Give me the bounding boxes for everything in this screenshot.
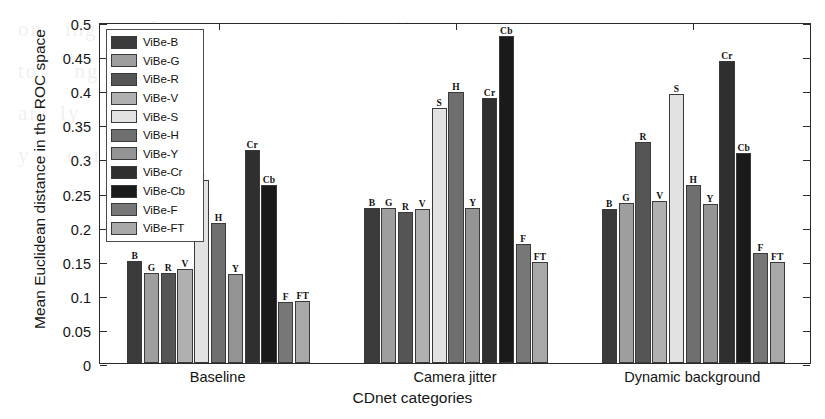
bar-value-label: S — [436, 98, 441, 108]
legend-swatch — [111, 203, 137, 216]
bar-value-label: B — [369, 198, 376, 208]
y-axis-title: Mean Euclidean distance in the ROC space — [31, 0, 49, 359]
bar: Cr — [245, 150, 260, 363]
x-group-label: Camera jitter — [414, 369, 497, 385]
legend-item: ViBe-B — [111, 33, 199, 52]
bar-value-label: G — [622, 193, 630, 203]
legend-swatch — [111, 222, 137, 235]
bar-value-label: FT — [296, 291, 309, 301]
bar-value-label: F — [758, 243, 764, 253]
bar: FT — [770, 262, 785, 363]
bar: F — [278, 302, 293, 363]
bar: V — [652, 201, 667, 363]
bar: B — [127, 261, 142, 363]
bar: H — [448, 92, 463, 363]
bar: H — [686, 185, 701, 363]
legend-label: ViBe-Cr — [143, 166, 182, 178]
bar-value-label: H — [452, 82, 460, 92]
legend-label: ViBe-B — [143, 36, 178, 48]
legend-swatch — [111, 110, 137, 123]
bar-value-label: Cb — [263, 175, 276, 185]
bar: R — [635, 142, 650, 363]
legend-swatch — [111, 92, 137, 105]
legend-item: ViBe-F — [111, 200, 199, 219]
bar-value-label: Cb — [500, 26, 513, 36]
bar-value-label: G — [385, 198, 393, 208]
bar: G — [381, 208, 396, 363]
bar: B — [364, 208, 379, 363]
x-axis-title: CDnet categories — [0, 389, 825, 407]
bar: Y — [228, 274, 243, 363]
y-tick-label: 0.05 — [63, 324, 91, 340]
bar: B — [602, 209, 617, 363]
bar-value-label: R — [639, 132, 646, 142]
bar-value-label: B — [131, 251, 138, 261]
bar-value-label: V — [182, 259, 189, 269]
legend-label: ViBe-V — [143, 92, 178, 104]
chart-legend: ViBe-BViBe-GViBe-RViBe-VViBe-SViBe-HViBe… — [106, 29, 204, 242]
legend-swatch — [111, 54, 137, 67]
legend-label: ViBe-F — [143, 204, 177, 216]
bar-value-label: G — [148, 263, 156, 273]
y-tick-label: 0.4 — [71, 85, 91, 101]
legend-item: ViBe-Y — [111, 145, 199, 164]
legend-item: ViBe-H — [111, 126, 199, 145]
legend-label: ViBe-S — [143, 111, 178, 123]
legend-item: ViBe-FT — [111, 219, 199, 238]
bar: V — [177, 269, 192, 363]
bar: G — [619, 203, 634, 363]
legend-swatch — [111, 166, 137, 179]
legend-label: ViBe-Y — [143, 148, 178, 160]
bar: S — [432, 108, 447, 363]
y-tick-label: 0.45 — [63, 51, 91, 67]
y-tick-label: 0.35 — [63, 119, 91, 135]
bar: Y — [465, 208, 480, 363]
bar-value-label: V — [656, 191, 663, 201]
y-tick-label: 0.1 — [71, 290, 91, 306]
bar-value-label: Y — [707, 194, 714, 204]
legend-label: ViBe-G — [143, 55, 179, 67]
plot-area: 00.050.10.150.20.250.30.350.40.450.5 BGR… — [99, 23, 811, 364]
bar-value-label: R — [165, 263, 172, 273]
legend-swatch — [111, 147, 137, 160]
bar: R — [161, 273, 176, 363]
bar-chart-figure: Mean Euclidean distance in the ROC space… — [0, 0, 825, 419]
legend-item: ViBe-Cb — [111, 182, 199, 201]
bar-value-label: F — [520, 234, 526, 244]
bar-value-label: Cr — [247, 140, 258, 150]
legend-swatch — [111, 36, 137, 49]
bar: Cr — [482, 98, 497, 363]
y-tick-right — [803, 365, 810, 366]
y-tick-label: 0.5 — [71, 17, 91, 33]
x-group-label: Dynamic background — [624, 369, 760, 385]
bar-value-label: Cr — [484, 88, 495, 98]
legend-swatch — [111, 185, 137, 198]
bars-container: BGRVSHYCrCbFFTBGRVSHYCrCbFFTBGRVSHYCrCbF… — [100, 24, 810, 363]
bar: FT — [295, 301, 310, 363]
legend-item: ViBe-S — [111, 107, 199, 126]
bar: Cr — [719, 61, 734, 363]
bar: Cb — [736, 153, 751, 363]
bar: Cb — [499, 36, 514, 363]
bar-value-label: V — [419, 199, 426, 209]
legend-swatch — [111, 129, 137, 142]
y-tick-label: 0.25 — [63, 188, 91, 204]
legend-item: ViBe-V — [111, 89, 199, 108]
bar: FT — [532, 262, 547, 363]
legend-item: ViBe-G — [111, 52, 199, 71]
bar: Y — [703, 204, 718, 363]
bar: R — [398, 212, 413, 363]
y-tick: 0 — [100, 365, 107, 366]
bar: V — [415, 209, 430, 363]
bar: F — [753, 253, 768, 363]
legend-item: ViBe-R — [111, 70, 199, 89]
bar-value-label: Y — [232, 264, 239, 274]
bar: Cb — [261, 185, 276, 363]
legend-label: ViBe-R — [143, 73, 179, 85]
legend-label: ViBe-FT — [143, 222, 184, 234]
bar-value-label: H — [215, 213, 223, 223]
bar: F — [516, 244, 531, 363]
bar-value-label: R — [402, 202, 409, 212]
bar-value-label: FT — [534, 252, 547, 262]
bar-value-label: FT — [771, 252, 784, 262]
